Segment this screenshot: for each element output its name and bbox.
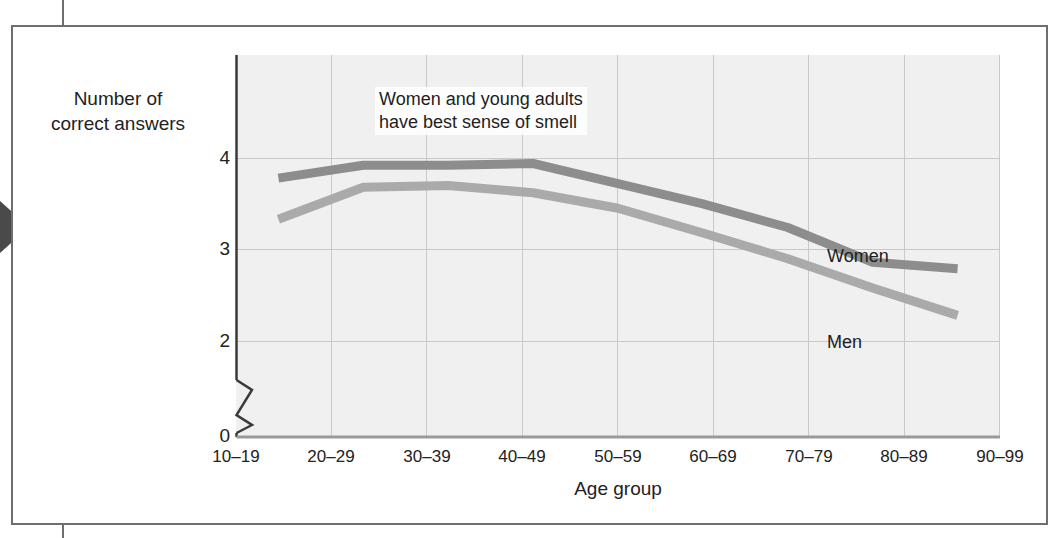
x-tick-label-8: 90–99 xyxy=(957,447,1043,467)
y-axis-title: Number of correct answers xyxy=(28,86,208,136)
x-tick-label-6: 70–79 xyxy=(766,447,852,467)
page-margin-rule-bottom xyxy=(62,525,64,538)
x-tick-label-2: 30–39 xyxy=(384,447,470,467)
x-tick-label-7: 80–89 xyxy=(861,447,947,467)
figure-page: Number of correct answers 4 3 2 0 Women … xyxy=(0,0,1061,538)
page-margin-rule-top xyxy=(62,0,64,26)
chart-axes xyxy=(196,45,1016,457)
x-tick-label-3: 40–49 xyxy=(479,447,565,467)
x-tick-label-5: 60–69 xyxy=(670,447,756,467)
x-axis-title: Age group xyxy=(236,478,1000,500)
x-tick-label-4: 50–59 xyxy=(575,447,661,467)
x-tick-label-0: 10–19 xyxy=(193,447,279,467)
x-tick-label-1: 20–29 xyxy=(288,447,374,467)
